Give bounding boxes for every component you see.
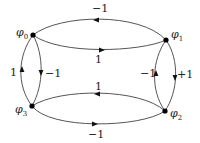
edge-phi2-phi3-inner xyxy=(32,93,165,111)
node-phi3 xyxy=(29,103,34,108)
edge-phi1-phi2-outer xyxy=(165,40,176,111)
edge-label-bottom-inner: 1 xyxy=(95,80,102,93)
node-label-phi1: φ1 xyxy=(171,28,183,43)
node-phi1 xyxy=(163,37,168,42)
edge-label-right-inner: −1 xyxy=(140,67,156,80)
edge-phi1-phi0-outer xyxy=(33,19,166,40)
node-label-phi3: φ3 xyxy=(15,103,27,118)
edge-label-bottom-outer: −1 xyxy=(88,128,104,141)
edge-label-top-outer: −1 xyxy=(92,2,108,15)
edge-phi3-phi0-outer xyxy=(21,35,33,106)
node-phi0 xyxy=(30,32,35,37)
edge-phi2-phi1-inner xyxy=(155,40,166,111)
edge-label-left-outer: 1 xyxy=(10,66,17,79)
node-phi2 xyxy=(162,108,167,113)
edge-phi3-phi2-outer xyxy=(32,106,165,124)
node-label-phi2: φ2 xyxy=(170,107,182,122)
edge-phi0-phi3-inner xyxy=(32,35,41,106)
edge-label-top-inner: 1 xyxy=(95,53,102,66)
edge-label-left-inner: −1 xyxy=(45,67,61,80)
node-label-phi0: φ0 xyxy=(16,26,28,41)
edge-phi0-phi1-inner xyxy=(33,35,166,50)
cycle-diagram: φ0 φ1 φ2 φ3 −1 1 1 −1 1 −1 −1 +1 xyxy=(0,0,200,143)
edge-label-right-outer: +1 xyxy=(177,68,193,81)
